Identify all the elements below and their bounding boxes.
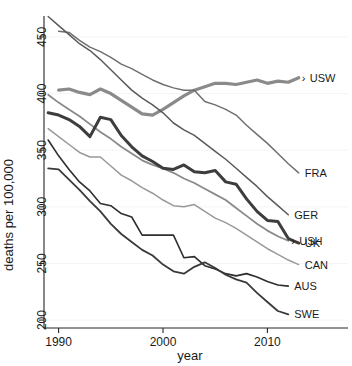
series-label-usw: USW bbox=[310, 72, 336, 84]
marker-arrow-icon: › bbox=[291, 235, 295, 247]
x-axis: 199020002010 bbox=[44, 328, 348, 349]
series-end-labels: ›USWFRAGER›USHUKCANAUSSWE bbox=[291, 72, 336, 321]
series-line-swe bbox=[48, 168, 288, 314]
x-tick-label: 2000 bbox=[150, 335, 177, 349]
series-label-fra: FRA bbox=[305, 167, 328, 179]
y-tick-label: 400 bbox=[35, 83, 49, 103]
y-tick-label: 300 bbox=[35, 196, 49, 216]
line-chart: 200250300350400450 199020002010 ›USWFRAG… bbox=[0, 0, 352, 366]
x-tick-label: 1990 bbox=[45, 335, 72, 349]
y-tick-label: 200 bbox=[35, 310, 49, 330]
x-axis-title: year bbox=[177, 348, 203, 363]
data-series-group bbox=[48, 17, 299, 315]
y-tick-label: 450 bbox=[35, 27, 49, 47]
series-line-aus bbox=[48, 140, 288, 286]
y-tick-label: 250 bbox=[35, 253, 49, 273]
series-label-swe: SWE bbox=[294, 308, 319, 320]
y-axis: 200250300350400450 bbox=[35, 16, 49, 330]
series-label-can: CAN bbox=[305, 259, 328, 271]
chart-canvas: 200250300350400450 199020002010 ›USWFRAG… bbox=[0, 0, 352, 366]
series-label-aus: AUS bbox=[294, 280, 317, 292]
series-line-fra bbox=[59, 31, 299, 173]
series-label-ger: GER bbox=[294, 209, 318, 221]
series-label-uk: UK bbox=[305, 237, 321, 249]
series-line-uk bbox=[48, 113, 299, 243]
y-tick-label: 350 bbox=[35, 140, 49, 160]
series-line-usw bbox=[59, 78, 299, 115]
marker-arrow-icon: › bbox=[302, 72, 306, 84]
x-tick-label: 2010 bbox=[254, 335, 281, 349]
y-axis-title: deaths per 100,000 bbox=[1, 159, 16, 271]
